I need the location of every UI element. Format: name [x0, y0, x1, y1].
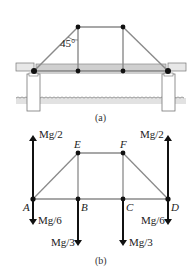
- force-label-C-down: Mg/3: [129, 236, 153, 248]
- force-arrows: [33, 138, 168, 243]
- water-surface: [16, 97, 186, 104]
- node-label-C: C: [126, 201, 134, 213]
- node-label-D: D: [170, 201, 179, 213]
- force-label-B-down: Mg/3: [51, 236, 75, 248]
- force-label-A-down: Mg/6: [38, 214, 62, 226]
- figure-b: A B C D E F Mg/2 Mg/2 Mg/6 Mg/6 Mg/3 Mg/…: [22, 128, 179, 267]
- caption-a: (a): [95, 112, 106, 124]
- node-label-F: F: [119, 138, 127, 150]
- node-label-A: A: [22, 201, 30, 213]
- figure-a: 45° (a): [16, 25, 186, 124]
- force-label-D-up: Mg/2: [140, 128, 164, 140]
- node-label-E: E: [73, 138, 81, 150]
- force-label-A-up: Mg/2: [39, 128, 63, 140]
- free-body-truss: [33, 153, 168, 199]
- right-pier: [162, 73, 175, 111]
- node-label-B: B: [81, 201, 88, 213]
- force-label-D-down: Mg/6: [141, 214, 165, 226]
- caption-b: (b): [95, 255, 107, 267]
- free-body-nodes: [30, 151, 170, 202]
- angle-label: 45°: [60, 37, 75, 49]
- truss-bridge-figure: 45° (a): [0, 0, 196, 277]
- left-pier: [27, 73, 40, 111]
